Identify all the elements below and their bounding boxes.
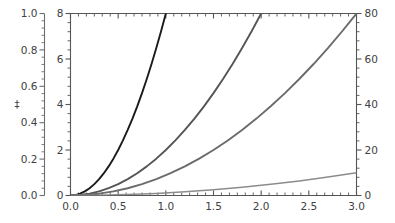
- right-tick-label: 40: [365, 98, 378, 110]
- inner-left-tick-label: 8: [57, 7, 64, 19]
- plot-figure: 0.00.20.40.60.81.0 02468 020406080 0.00.…: [0, 0, 395, 223]
- right-tick-label: 80: [365, 7, 378, 19]
- outer-left-tick-label: 0.4: [21, 116, 38, 128]
- outer-left-tick-label: 0.0: [21, 189, 38, 201]
- plot-canvas: 0.00.20.40.60.81.0 02468 020406080 0.00.…: [0, 0, 395, 223]
- x-tick-label: 0.5: [110, 200, 127, 212]
- faint-axis-marker: ‡: [15, 99, 20, 110]
- x-tick-label: 1.5: [205, 200, 222, 212]
- inner-left-tick-label: 2: [57, 144, 64, 156]
- x-tick-label: 3.0: [348, 200, 365, 212]
- x-tick-label: 2.5: [300, 200, 317, 212]
- x-tick-label: 0.0: [62, 200, 79, 212]
- outer-left-tick-label: 0.2: [21, 153, 38, 165]
- outer-left-tick-label: 1.0: [21, 7, 38, 19]
- outer-left-tick-label: 0.8: [21, 44, 38, 56]
- right-tick-label: 60: [365, 53, 378, 65]
- right-tick-label: 20: [365, 144, 378, 156]
- faint-axis-marker-glyph: ‡: [15, 99, 20, 110]
- x-tick-label: 1.0: [157, 200, 174, 212]
- inner-left-tick-label: 4: [57, 98, 64, 110]
- inner-left-tick-label: 6: [57, 53, 64, 65]
- x-tick-label: 2.0: [253, 200, 270, 212]
- right-tick-label: 0: [365, 189, 372, 201]
- outer-left-tick-label: 0.6: [21, 80, 38, 92]
